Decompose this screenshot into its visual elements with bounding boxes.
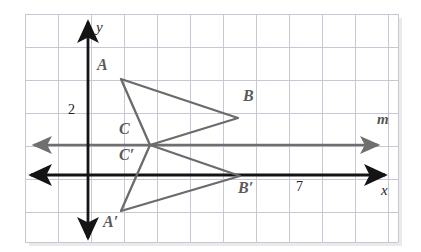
x-scale-label-7: 7 [296, 180, 303, 194]
geometry-diagram [0, 0, 421, 252]
line-m-label: m [377, 112, 389, 127]
y-axis-label: y [96, 20, 103, 35]
vertex-label-C: C [119, 121, 130, 137]
y-scale-label-2: 2 [68, 103, 75, 117]
x-axis-label: x [381, 183, 388, 198]
vertex-label-C-prime: C′ [119, 147, 134, 163]
vertex-label-A-prime: A′ [103, 214, 118, 230]
vertex-label-B: B [243, 88, 254, 104]
figure-canvas: A B C C′ B′ A′ y x m 2 7 [0, 0, 421, 252]
paper-surface [25, 14, 398, 242]
vertex-label-B-prime: B′ [238, 180, 253, 196]
vertex-label-A: A [97, 57, 108, 73]
